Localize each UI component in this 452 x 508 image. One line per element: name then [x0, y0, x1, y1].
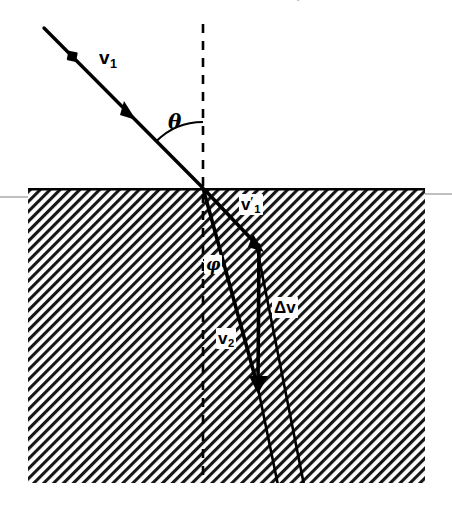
label-velocity-change-vector: v — [286, 298, 295, 317]
label-incidence-angle-symbol: θ — [168, 110, 181, 134]
label-incident-velocity-symbol: v — [99, 47, 110, 68]
refraction-diagram-figure: • — [0, 0, 452, 508]
label-incident-velocity: v1 — [99, 48, 117, 70]
label-refracted-velocity: v2 — [216, 330, 236, 349]
delta-v-vector-shaft — [258, 245, 259, 383]
incident-ray-arrowhead-icon — [120, 101, 136, 120]
diagram-canvas — [0, 0, 452, 508]
label-continued-velocity: v′1 — [239, 196, 263, 215]
label-refracted-velocity-subscript: 2 — [228, 337, 234, 349]
label-refraction-angle-symbol: φ — [206, 255, 220, 274]
label-refraction-angle: φ — [204, 257, 222, 273]
label-velocity-change-delta: Δ — [274, 298, 286, 317]
label-continued-velocity-subscript: 1 — [254, 203, 260, 215]
label-velocity-change: Δv — [272, 299, 298, 316]
label-incidence-angle: θ — [168, 112, 181, 132]
label-refracted-velocity-symbol: v — [218, 329, 227, 348]
particle-marker-icon — [67, 51, 78, 62]
label-incident-velocity-subscript: 1 — [110, 57, 117, 71]
